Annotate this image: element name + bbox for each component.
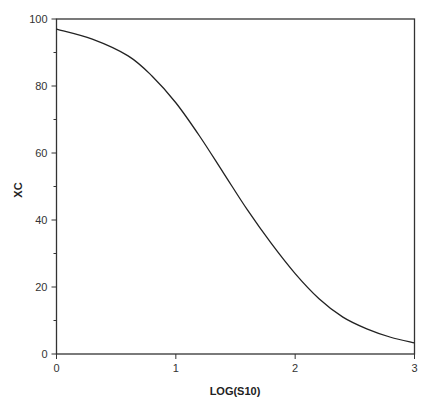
y-tick-label: 80 xyxy=(35,80,47,92)
y-tick-label: 60 xyxy=(35,147,47,159)
chart: 020406080100 0123 LOG(S10) XC xyxy=(0,0,433,408)
x-tick-label: 2 xyxy=(292,362,298,374)
x-axis: 0123 xyxy=(53,354,417,374)
y-tick-label: 40 xyxy=(35,214,47,226)
x-tick-label: 0 xyxy=(53,362,59,374)
x-tick-label: 1 xyxy=(173,362,179,374)
y-tick-label: 20 xyxy=(35,281,47,293)
y-tick-label: 100 xyxy=(29,13,47,25)
x-axis-title: LOG(S10) xyxy=(210,385,261,397)
x-tick-label: 3 xyxy=(411,362,417,374)
y-axis: 020406080100 xyxy=(29,13,56,360)
data-line xyxy=(57,29,415,343)
plot-frame xyxy=(57,19,415,354)
y-tick-label: 0 xyxy=(41,348,47,360)
y-axis-title: XC xyxy=(12,182,24,197)
